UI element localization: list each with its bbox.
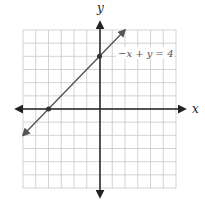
y-axis-label: y — [96, 1, 104, 15]
coordinate-plane: x y −x + y = 4 — [0, 0, 205, 209]
marked-point — [97, 54, 102, 59]
marked-point — [46, 107, 51, 112]
x-axis-label: x — [192, 102, 199, 116]
equation-label: −x + y = 4 — [118, 48, 174, 59]
